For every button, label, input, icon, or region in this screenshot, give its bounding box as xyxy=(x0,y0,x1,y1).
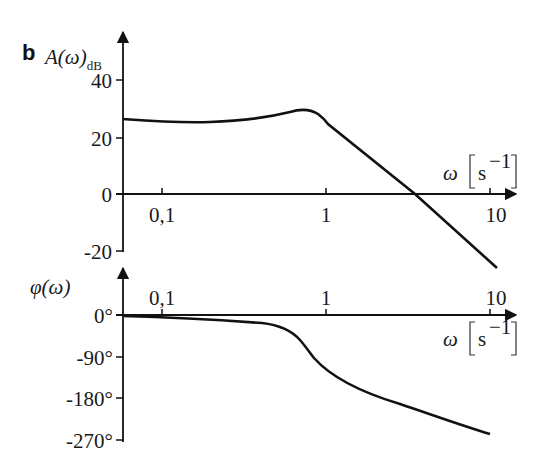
phase-tick-minus270: -270° xyxy=(66,429,113,453)
phase-tick-minus90: -90° xyxy=(77,346,113,370)
phase-x-unit-label: ω s −1 xyxy=(443,315,516,355)
phase-tick-0: 0° xyxy=(94,304,113,328)
phase-tick-minus180: -180° xyxy=(66,387,113,411)
svg-text:s: s xyxy=(478,161,486,185)
phase-xtick-10: 10 xyxy=(486,286,507,310)
amp-tick-0: 0 xyxy=(102,183,113,207)
bode-plot: b A(ω)dB 40 20 0 -20 0,1 1 10 ω s xyxy=(0,0,538,474)
amp-tick-20: 20 xyxy=(91,127,112,151)
amplitude-plot: A(ω)dB 40 20 0 -20 0,1 1 10 ω s −1 xyxy=(43,32,516,268)
phase-xtick-0.1: 0,1 xyxy=(149,286,175,310)
svg-text:ω: ω xyxy=(443,161,458,185)
phase-xtick-1: 1 xyxy=(321,286,332,310)
amp-xtick-0.1: 0,1 xyxy=(149,203,175,227)
figure-label: b xyxy=(22,40,35,65)
amplitude-curve xyxy=(123,110,497,268)
svg-text:−1: −1 xyxy=(489,315,511,339)
phase-y-label: φ(ω) xyxy=(30,275,70,299)
svg-text:ω: ω xyxy=(443,327,458,351)
svg-text:s: s xyxy=(478,327,486,351)
phase-plot: φ(ω) 0° -90° -180° -270° 0,1 1 10 ω s −1 xyxy=(30,268,516,453)
amp-x-unit-label: ω s −1 xyxy=(443,149,516,188)
amp-tick-minus20: -20 xyxy=(84,240,112,264)
amp-tick-40: 40 xyxy=(91,69,112,93)
amp-xtick-10: 10 xyxy=(486,203,507,227)
svg-text:−1: −1 xyxy=(489,149,511,173)
phase-curve xyxy=(123,316,490,434)
amp-xtick-1: 1 xyxy=(321,203,332,227)
